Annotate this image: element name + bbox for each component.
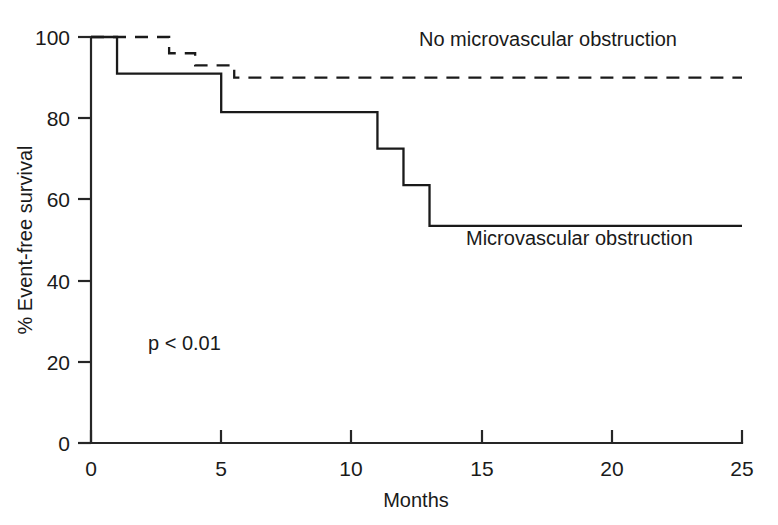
series-label-no-microvascular-obstruction: No microvascular obstruction [419, 28, 677, 50]
x-tick-label-15: 15 [470, 457, 493, 480]
curve-microvascular-obstruction [91, 37, 742, 226]
x-tick-label-5: 5 [215, 457, 227, 480]
y-tick-label-20: 20 [47, 351, 70, 374]
y-tick-label-60: 60 [47, 188, 70, 211]
x-tick-label-25: 25 [730, 457, 753, 480]
p-value-annotation: p < 0.01 [148, 332, 221, 354]
kaplan-meier-chart: 100 80 60 40 20 0 0 5 10 15 20 25 Months… [0, 0, 778, 525]
x-tick-label-20: 20 [600, 457, 623, 480]
x-axis-ticks: 0 5 10 15 20 25 [85, 430, 754, 480]
x-axis-title: Months [383, 489, 449, 511]
y-tick-label-0: 0 [58, 432, 70, 455]
y-axis-ticks: 100 80 60 40 20 0 [35, 26, 91, 455]
y-tick-label-40: 40 [47, 270, 70, 293]
y-axis-title: % Event-free survival [14, 146, 36, 335]
y-tick-label-80: 80 [47, 107, 70, 130]
y-tick-label-100: 100 [35, 26, 70, 49]
x-tick-label-0: 0 [85, 457, 97, 480]
figure-container: 100 80 60 40 20 0 0 5 10 15 20 25 Months… [0, 0, 778, 525]
x-tick-label-10: 10 [339, 457, 362, 480]
series-label-microvascular-obstruction: Microvascular obstruction [466, 227, 693, 249]
